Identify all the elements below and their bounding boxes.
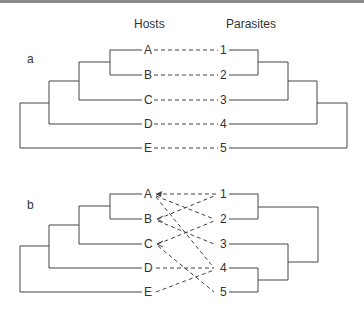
panel-b-label: b	[27, 198, 34, 212]
links-a	[154, 50, 218, 148]
parasite-5: 5	[220, 285, 227, 299]
parasite-1: 1	[220, 187, 227, 201]
host-d: D	[144, 117, 153, 131]
links-b	[156, 191, 216, 292]
host-d: D	[144, 261, 153, 275]
parasite-3: 3	[220, 93, 227, 107]
parasites-header: Parasites	[226, 17, 276, 31]
parasite-2: 2	[220, 212, 227, 226]
host-e: E	[144, 285, 152, 299]
host-a: A	[144, 43, 152, 57]
parasite-4: 4	[220, 117, 227, 131]
panel-a-label: a	[27, 52, 34, 66]
hosts-header: Hosts	[134, 17, 165, 31]
parasite-5: 5	[220, 141, 227, 155]
host-b: B	[144, 68, 152, 82]
cophylogeny-diagram: Hosts Parasites a A B C D E 1 2 3 4 5	[0, 0, 364, 312]
host-c: C	[144, 93, 153, 107]
parasite-2: 2	[220, 68, 227, 82]
host-tree-a	[20, 50, 142, 148]
host-tree-b	[20, 194, 142, 292]
panel-b: b A B C D E 1 2 3	[20, 187, 318, 299]
parasite-1: 1	[220, 43, 227, 57]
parasite-3: 3	[220, 237, 227, 251]
parasite-4: 4	[220, 261, 227, 275]
parasite-tree-b	[229, 194, 318, 292]
host-e: E	[144, 141, 152, 155]
panel-a: a A B C D E 1 2 3 4 5	[20, 43, 347, 155]
parasite-tree-a	[229, 50, 347, 148]
host-a: A	[144, 187, 152, 201]
host-b: B	[144, 212, 152, 226]
host-c: C	[144, 237, 153, 251]
